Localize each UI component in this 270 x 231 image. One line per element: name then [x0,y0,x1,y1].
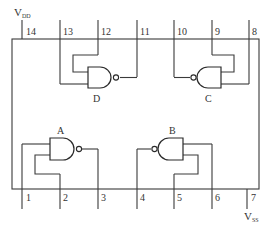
pin-label-7: 7 [251,192,256,203]
inverter-bubble [113,75,118,80]
gate-label-b: B [169,125,176,136]
pin-label-6: 6 [215,192,220,203]
inverter-bubble [76,146,81,151]
vss-label: VSS [244,210,259,223]
pin-label-14: 14 [26,26,36,37]
chip-body [12,39,259,189]
pin-label-8: 8 [252,26,257,37]
vdd-label: VDD [14,6,31,19]
pin-label-9: 9 [215,26,220,37]
nand-gate-d [88,67,119,88]
nand-gate-b [152,138,183,160]
gate-label-d: D [93,93,100,104]
pin-label-4: 4 [140,192,145,203]
pin-label-12: 12 [101,26,111,37]
ic-pinout-diagram: 14 13 12 11 10 9 8 VDD 1 2 3 4 5 6 7 VSS… [0,0,270,231]
pin-label-10: 10 [177,26,187,37]
nand-gate-c [191,67,221,88]
inverter-bubble [152,146,157,151]
pin-label-1: 1 [26,192,31,203]
inverter-bubble [191,75,196,80]
nand-gate-a [50,138,82,160]
pin-label-5: 5 [177,192,182,203]
pin-label-11: 11 [140,26,150,37]
pin-label-3: 3 [101,192,106,203]
pin-label-13: 13 [63,26,73,37]
gate-label-a: A [57,125,65,136]
gate-label-c: C [205,93,212,104]
pin-label-2: 2 [63,192,68,203]
